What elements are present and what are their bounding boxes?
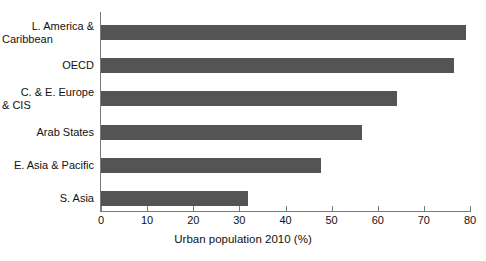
x-axis-tick: [286, 206, 287, 211]
x-axis-title: Urban population 2010 (%): [0, 233, 486, 245]
category-label-line: S. Asia: [0, 192, 94, 205]
x-axis-tick-label: 80: [455, 214, 485, 226]
category-label: OECD: [0, 59, 94, 72]
bar: [101, 125, 362, 140]
category-label-line: E. Asia & Pacific: [0, 159, 94, 172]
x-axis-tick: [378, 206, 379, 211]
x-axis-tick-label: 0: [86, 214, 116, 226]
category-label-line: C. & E. Europe: [0, 86, 94, 99]
category-label-line: Arab States: [0, 126, 94, 139]
category-label-line: & CIS: [0, 99, 94, 112]
bar: [101, 25, 466, 40]
x-axis-tick: [332, 206, 333, 211]
bar: [101, 91, 397, 106]
category-label: S. Asia: [0, 192, 94, 205]
x-axis-tick-label: 30: [224, 214, 254, 226]
bar: [101, 191, 248, 206]
bar: [101, 158, 321, 173]
x-axis-line: [100, 211, 471, 212]
category-axis-labels: L. America &CaribbeanOECDC. & E. Europe&…: [0, 12, 94, 211]
category-label: Arab States: [0, 126, 94, 139]
x-axis-tick-label: 20: [178, 214, 208, 226]
plot-area: [101, 12, 470, 211]
x-axis-tick: [193, 206, 194, 211]
x-axis-tick-label: 50: [317, 214, 347, 226]
category-label-line: Caribbean: [0, 33, 94, 46]
category-label-line: L. America &: [0, 20, 94, 33]
x-axis-tick-label: 10: [132, 214, 162, 226]
x-axis-tick-label: 40: [271, 214, 301, 226]
x-axis-tick: [147, 206, 148, 211]
x-axis-tick-label: 70: [409, 214, 439, 226]
x-axis-tick: [239, 206, 240, 211]
category-label-line: OECD: [0, 59, 94, 72]
x-axis-tick: [424, 206, 425, 211]
category-label: C. & E. Europe& CIS: [0, 86, 94, 112]
y-axis-line: [100, 12, 101, 211]
category-label: E. Asia & Pacific: [0, 159, 94, 172]
x-axis-tick: [101, 206, 102, 211]
bar: [101, 58, 454, 73]
x-axis-tick-label: 60: [363, 214, 393, 226]
bar-chart: L. America &CaribbeanOECDC. & E. Europe&…: [0, 0, 486, 261]
x-axis-tick: [470, 206, 471, 211]
category-label: L. America &Caribbean: [0, 20, 94, 46]
